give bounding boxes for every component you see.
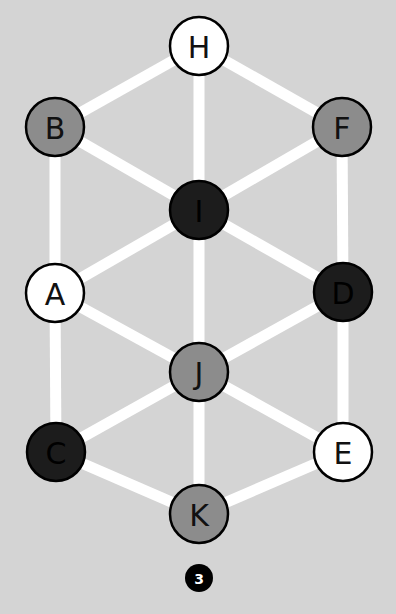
node-f: F xyxy=(313,98,371,156)
node-label: F xyxy=(333,111,350,146)
node-label: K xyxy=(189,498,210,533)
edges-layer xyxy=(55,46,343,514)
page-number-label: 3 xyxy=(194,571,204,587)
node-label: J xyxy=(193,356,204,391)
node-label: A xyxy=(45,277,66,312)
node-label: C xyxy=(46,436,67,471)
node-b: B xyxy=(26,98,84,156)
node-a: A xyxy=(26,264,84,322)
node-i: I xyxy=(170,181,228,239)
graph-diagram: HBFIADJCEK 3 xyxy=(0,0,396,614)
node-label: E xyxy=(334,436,353,471)
node-label: B xyxy=(45,111,66,146)
node-h: H xyxy=(170,17,228,75)
page-number-badge: 3 xyxy=(185,564,213,592)
node-k: K xyxy=(170,485,228,543)
node-d: D xyxy=(314,263,372,321)
node-e: E xyxy=(314,423,372,481)
node-c: C xyxy=(27,423,85,481)
graph-canvas: HBFIADJCEK 3 xyxy=(0,0,396,614)
node-label: I xyxy=(195,194,204,229)
node-j: J xyxy=(170,343,228,401)
node-label: H xyxy=(188,30,211,65)
node-label: D xyxy=(331,276,354,311)
